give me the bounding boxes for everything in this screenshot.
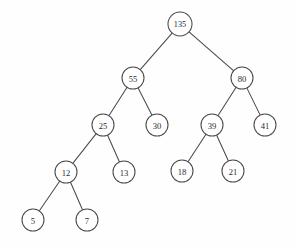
node-label-39: 39	[208, 121, 217, 131]
node-label-30: 30	[153, 121, 162, 131]
node-label-5: 5	[31, 216, 35, 226]
node-label-135: 135	[174, 20, 186, 29]
tree-edge-80-to-39	[218, 87, 236, 115]
tree-edge-25-to-12	[73, 134, 96, 164]
tree-edge-25-to-13	[107, 135, 119, 162]
node-label-21: 21	[229, 167, 238, 177]
tree-node-80[interactable]: 80	[231, 67, 253, 89]
tree-edge-39-to-21	[217, 135, 229, 161]
node-label-41: 41	[261, 121, 270, 131]
tree-canvas: 1355580253039411213182157	[0, 0, 298, 247]
tree-node-21[interactable]: 21	[222, 160, 244, 182]
node-label-80: 80	[238, 74, 247, 84]
tree-edge-80-to-41	[247, 88, 260, 115]
tree-node-41[interactable]: 41	[254, 114, 276, 136]
tree-node-13[interactable]: 13	[113, 161, 135, 183]
tree-edge-12-to-7	[70, 182, 82, 210]
tree-node-135[interactable]: 135	[168, 12, 192, 36]
binary-tree-diagram: 1355580253039411213182157	[0, 0, 298, 247]
node-label-12: 12	[62, 168, 71, 178]
tree-node-18[interactable]: 18	[171, 160, 193, 182]
tree-edge-135-to-55	[140, 33, 172, 70]
tree-node-12[interactable]: 12	[55, 161, 77, 183]
tree-node-5[interactable]: 5	[22, 209, 44, 231]
node-label-18: 18	[178, 167, 187, 177]
node-label-25: 25	[99, 121, 108, 131]
tree-node-55[interactable]: 55	[122, 67, 144, 89]
tree-node-25[interactable]: 25	[92, 114, 114, 136]
tree-node-7[interactable]: 7	[76, 209, 98, 231]
tree-node-39[interactable]: 39	[201, 114, 223, 136]
tree-edge-55-to-30	[138, 88, 152, 115]
tree-edge-39-to-18	[188, 134, 206, 162]
node-label-7: 7	[85, 216, 90, 226]
node-label-13: 13	[120, 168, 129, 178]
tree-node-30[interactable]: 30	[146, 114, 168, 136]
tree-edge-12-to-5	[39, 181, 60, 211]
tree-edge-135-to-80	[189, 32, 234, 71]
tree-edge-55-to-25	[109, 87, 127, 115]
node-layer: 1355580253039411213182157	[22, 12, 276, 231]
node-label-55: 55	[129, 74, 138, 84]
